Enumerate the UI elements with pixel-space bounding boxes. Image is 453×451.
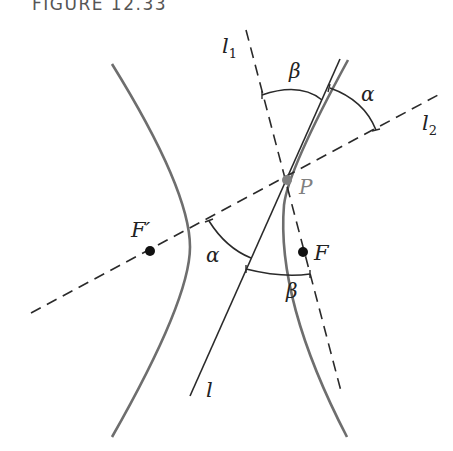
arc-beta-bottom xyxy=(246,269,310,275)
point-P xyxy=(282,175,292,185)
label-F: F xyxy=(313,241,330,265)
arc-beta-top xyxy=(262,90,322,100)
label-l2: l2 xyxy=(422,111,437,138)
label-beta-top: β xyxy=(288,59,301,83)
line-l2-dashed xyxy=(31,95,438,313)
label-beta-bottom: β xyxy=(285,279,298,303)
label-P: P xyxy=(298,175,313,199)
focus-F-prime xyxy=(145,246,155,256)
label-l1: l1 xyxy=(222,34,237,61)
label-alpha-top: α xyxy=(361,82,375,106)
line-l1-dashed xyxy=(246,30,342,395)
label-l: l xyxy=(206,378,213,402)
label-alpha-bottom: α xyxy=(206,243,220,267)
hyperbola-reflection-diagram: l1 l2 l P F F′ β α α β xyxy=(0,0,453,451)
label-F-prime: F′ xyxy=(130,218,151,242)
focus-F xyxy=(298,247,308,257)
